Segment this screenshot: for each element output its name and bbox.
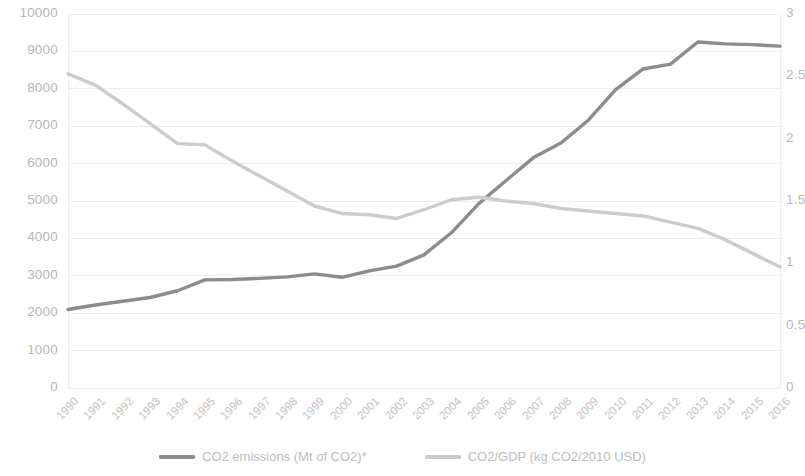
- y-tick-left-4000: 4000: [2, 229, 58, 244]
- co2-chart: 0100020003000400050006000700080009000100…: [0, 0, 805, 476]
- legend-item-1[interactable]: CO2 emissions (Mt of CO2)*: [159, 449, 367, 464]
- y-tick-left-10000: 10000: [2, 5, 58, 20]
- legend-item-2[interactable]: CO2/GDP (kg CO2/2010 USD): [425, 449, 646, 464]
- y-tick-right-0.5: 0.5: [786, 317, 805, 332]
- series-lines: [68, 42, 780, 309]
- y-tick-left-8000: 8000: [2, 80, 58, 95]
- legend-label: CO2 emissions (Mt of CO2)*: [202, 449, 367, 464]
- legend-swatch-icon: [159, 455, 195, 459]
- y-tick-left-7000: 7000: [2, 117, 58, 132]
- y-tick-left-3000: 3000: [2, 267, 58, 282]
- series-line-1: [68, 42, 780, 309]
- y-tick-left-9000: 9000: [2, 42, 58, 57]
- y-tick-left-0: 0: [2, 379, 58, 394]
- y-tick-left-6000: 6000: [2, 155, 58, 170]
- y-tick-left-1000: 1000: [2, 342, 58, 357]
- gridlines: [68, 14, 780, 388]
- y-tick-right-1: 1: [786, 254, 794, 269]
- y-tick-right-0: 0: [786, 379, 794, 394]
- y-tick-left-2000: 2000: [2, 304, 58, 319]
- legend-swatch-icon: [425, 455, 461, 459]
- chart-legend: CO2 emissions (Mt of CO2)*CO2/GDP (kg CO…: [0, 449, 805, 464]
- legend-label: CO2/GDP (kg CO2/2010 USD): [468, 449, 646, 464]
- y-tick-right-3: 3: [786, 5, 794, 20]
- y-tick-right-2: 2: [786, 130, 794, 145]
- y-tick-right-2.5: 2.5: [786, 67, 805, 82]
- y-tick-left-5000: 5000: [2, 192, 58, 207]
- y-tick-right-1.5: 1.5: [786, 192, 805, 207]
